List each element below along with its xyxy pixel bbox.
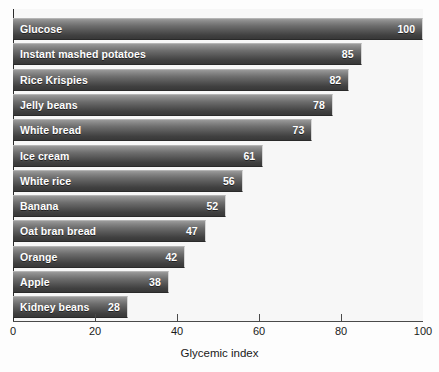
bar[interactable]: Rice Krispies82 (13, 69, 349, 91)
x-axis-tick-label: 40 (171, 325, 183, 337)
bar-row[interactable]: Glucose100 (13, 18, 423, 40)
bar-category-label: Glucose (20, 23, 62, 35)
x-axis-tick-label: 60 (253, 325, 265, 337)
glycemic-index-bar-chart: Glucose100Instant mashed potatoes85Rice … (0, 0, 439, 372)
bar-row[interactable]: Instant mashed potatoes85 (13, 43, 362, 65)
bar-value-label: 28 (108, 301, 120, 313)
bar-value-label: 56 (223, 175, 235, 187)
x-axis-tick-mark (177, 314, 178, 321)
bar-category-label: Oat bran bread (20, 225, 96, 237)
x-axis-tick-mark (95, 314, 96, 321)
bar-value-label: 47 (186, 225, 198, 237)
bar-category-label: Apple (20, 276, 50, 288)
bar[interactable]: Apple38 (13, 271, 169, 293)
bar-value-label: 85 (342, 48, 354, 60)
bar-category-label: Kidney beans (20, 301, 89, 313)
bar-value-label: 52 (207, 200, 219, 212)
bar-value-label: 78 (313, 99, 325, 111)
bar-row[interactable]: Apple38 (13, 271, 169, 293)
x-axis-line (13, 321, 423, 322)
bar-category-label: Rice Krispies (20, 74, 88, 86)
bar-category-label: Jelly beans (20, 99, 78, 111)
bar-category-label: Instant mashed potatoes (20, 48, 146, 60)
bar[interactable]: White rice56 (13, 170, 243, 192)
bar-row[interactable]: White rice56 (13, 170, 243, 192)
bar-row[interactable]: Oat bran bread47 (13, 220, 206, 242)
bar-row[interactable]: Banana52 (13, 195, 226, 217)
bar-value-label: 73 (293, 124, 305, 136)
bar-value-label: 82 (330, 74, 342, 86)
bar[interactable]: Glucose100 (13, 18, 423, 40)
bar-value-label: 38 (149, 276, 161, 288)
bar-row[interactable]: Kidney beans28 (13, 296, 128, 318)
bar[interactable]: Kidney beans28 (13, 296, 128, 318)
x-axis-tick-label: 80 (335, 325, 347, 337)
bar-value-label: 42 (166, 251, 178, 263)
x-axis-title: Glycemic index (0, 347, 439, 359)
x-axis-tick-label: 0 (10, 325, 16, 337)
bar[interactable]: Oat bran bread47 (13, 220, 206, 242)
bar-row[interactable]: Ice cream61 (13, 145, 263, 167)
x-axis-tick-mark (259, 314, 260, 321)
bar[interactable]: Orange42 (13, 246, 185, 268)
bar-category-label: White bread (20, 124, 81, 136)
bar-row[interactable]: Jelly beans78 (13, 94, 333, 116)
bar-category-label: Banana (20, 200, 59, 212)
bar[interactable]: Ice cream61 (13, 145, 263, 167)
bar-row[interactable]: White bread73 (13, 119, 312, 141)
bar-category-label: Ice cream (20, 150, 69, 162)
bar[interactable]: Banana52 (13, 195, 226, 217)
bar[interactable]: Instant mashed potatoes85 (13, 43, 362, 65)
bar-value-label: 61 (243, 150, 255, 162)
x-axis-tick-label: 20 (89, 325, 101, 337)
bar-row[interactable]: Orange42 (13, 246, 185, 268)
bar-category-label: Orange (20, 251, 57, 263)
bar-value-label: 100 (397, 23, 415, 35)
bars-container: Glucose100Instant mashed potatoes85Rice … (13, 9, 423, 321)
bar-category-label: White rice (20, 175, 71, 187)
bar-row[interactable]: Rice Krispies82 (13, 69, 349, 91)
x-axis-tick-mark (341, 314, 342, 321)
bar[interactable]: White bread73 (13, 119, 312, 141)
x-axis-tick-label: 100 (414, 325, 432, 337)
bar[interactable]: Jelly beans78 (13, 94, 333, 116)
